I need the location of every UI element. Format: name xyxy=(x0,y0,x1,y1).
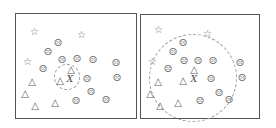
face-icon: ☹ xyxy=(113,73,122,83)
triangle-icon: △ xyxy=(56,76,64,86)
face-icon: ☹ xyxy=(83,74,92,84)
face-icon: ☹ xyxy=(207,74,216,84)
triangle-icon: △ xyxy=(28,77,36,87)
face-icon: ☹ xyxy=(196,96,205,106)
star-icon: ☆ xyxy=(77,30,86,40)
triangle-icon: △ xyxy=(154,77,162,87)
star-icon: ☆ xyxy=(203,29,212,39)
face-icon: ☹ xyxy=(72,96,81,106)
face-icon: ☹ xyxy=(180,56,189,66)
triangle-icon: △ xyxy=(21,89,29,99)
face-icon: ☹ xyxy=(209,56,218,66)
face-icon: ☹ xyxy=(236,58,245,68)
triangle-icon: △ xyxy=(146,89,154,99)
query-point-label: X xyxy=(67,75,73,84)
face-icon: ☹ xyxy=(225,95,234,105)
face-icon: ☹ xyxy=(112,58,121,68)
triangle-icon: △ xyxy=(31,101,39,111)
face-icon: ☹ xyxy=(215,88,224,98)
star-icon: ☆ xyxy=(154,25,163,35)
face-icon: ☹ xyxy=(73,54,82,64)
triangle-icon: △ xyxy=(174,98,182,108)
face-icon: ☹ xyxy=(164,64,173,74)
face-icon: ☹ xyxy=(54,38,63,48)
face-icon: ☹ xyxy=(39,64,48,74)
face-icon: ☹ xyxy=(179,38,188,48)
star-icon: ☆ xyxy=(30,27,39,37)
star-icon: ☆ xyxy=(23,57,32,67)
face-icon: ☹ xyxy=(44,47,53,57)
face-icon: ☹ xyxy=(87,87,96,97)
face-icon: ☹ xyxy=(102,95,111,105)
face-icon: ☹ xyxy=(89,55,98,65)
triangle-icon: △ xyxy=(51,98,59,108)
face-icon: ☹ xyxy=(238,73,247,83)
star-icon: ☆ xyxy=(148,57,157,67)
query-point-label: X xyxy=(191,75,197,84)
face-icon: ☹ xyxy=(169,47,178,57)
triangle-icon: △ xyxy=(179,76,187,86)
face-icon: ☹ xyxy=(58,55,67,65)
triangle-icon: △ xyxy=(156,101,164,111)
